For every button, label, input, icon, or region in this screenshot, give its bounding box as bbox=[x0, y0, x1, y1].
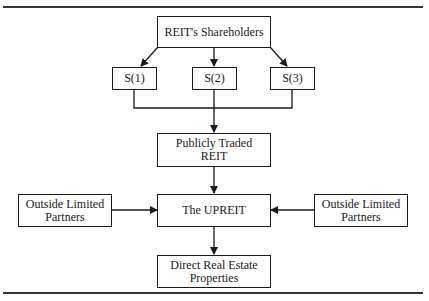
s3-box: S(3) bbox=[270, 67, 315, 90]
left-partners-box: Outside Limited Partners bbox=[18, 194, 112, 227]
s1-label: S(1) bbox=[124, 72, 145, 85]
s2-box: S(2) bbox=[192, 67, 237, 90]
direct-properties-box: Direct Real Estate Properties bbox=[157, 255, 271, 288]
upreit-box: The UPREIT bbox=[157, 194, 271, 227]
s2-label: S(2) bbox=[204, 72, 225, 85]
public-reit-line2: REIT bbox=[201, 150, 228, 163]
merge-line bbox=[134, 89, 292, 108]
right-partners-line1: Outside Limited bbox=[322, 198, 400, 211]
arrow-shareholders-s1 bbox=[141, 47, 158, 66]
public-reit-box: Publicly Traded REIT bbox=[157, 133, 271, 167]
right-partners-box: Outside Limited Partners bbox=[314, 194, 408, 227]
right-partners-line2: Partners bbox=[341, 211, 380, 224]
s1-box: S(1) bbox=[112, 67, 157, 90]
left-partners-line2: Partners bbox=[45, 211, 84, 224]
arrow-shareholders-s3 bbox=[270, 47, 287, 66]
left-partners-line1: Outside Limited bbox=[26, 198, 104, 211]
shareholders-label: REIT's Shareholders bbox=[164, 26, 263, 39]
s3-label: S(3) bbox=[282, 72, 303, 85]
upreit-label: The UPREIT bbox=[182, 204, 246, 217]
direct-line1: Direct Real Estate bbox=[170, 259, 257, 272]
direct-line2: Properties bbox=[190, 272, 239, 285]
shareholders-box: REIT's Shareholders bbox=[157, 16, 271, 48]
